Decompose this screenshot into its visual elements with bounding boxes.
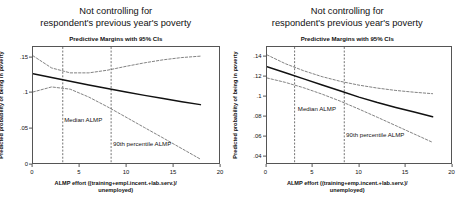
plot-annotation: Median ALMP (64, 116, 102, 123)
x-axis-label-line2: unemployed) (8, 187, 224, 194)
plot-svg: Median ALMP90th percentile ALMP (33, 47, 219, 163)
y-tick-label: .1 (257, 93, 262, 99)
x-tick-mark (405, 164, 406, 167)
x-tick-label: 10 (355, 169, 362, 175)
predictive-margins-figure: Not controlling for respondent's previou… (0, 0, 463, 208)
x-tick-label: 5 (310, 169, 313, 175)
panel-right: Not controlling for respondent's previou… (232, 0, 463, 208)
x-tick-mark (220, 164, 221, 167)
x-axis-label-line1: ALMP effort ((training+empl.incent.+lab.… (8, 180, 224, 187)
x-tick-mark (79, 164, 80, 167)
plot-svg: Median ALMP90th percentile ALMP (267, 47, 451, 163)
y-tick-label: 0 (25, 161, 28, 167)
y-tick-label: .1 (23, 89, 28, 95)
plot-area: Median ALMP90th percentile ALMP (32, 46, 220, 164)
panel-title-line1: Not controlling for (232, 6, 463, 18)
x-tick-mark (126, 164, 127, 167)
x-tick-mark (265, 164, 266, 167)
x-tick-label: 5 (77, 169, 80, 175)
data-series-line (33, 87, 200, 159)
panel-subtitle: Predictive Margins with 95% CIs (232, 35, 463, 42)
panel-title-line1: Not controlling for (0, 6, 232, 18)
x-tick-mark (173, 164, 174, 167)
x-tick-label: 0 (30, 169, 33, 175)
x-axis-label: ALMP effort ((training+empl.incent.+lab.… (8, 180, 224, 195)
y-axis-ticks: .04.06.08.1.12.14 (232, 46, 266, 164)
panel-subtitle: Predictive Margins with 95% CIs (0, 35, 232, 42)
panel-title-line2: respondent's previous year's poverty (232, 18, 463, 30)
x-axis-ticks: 05101520 (266, 164, 452, 178)
plot-annotation: 90th percentile ALMP (346, 131, 404, 138)
x-tick-mark (32, 164, 33, 167)
x-axis-label-line2: unemployed) (240, 187, 456, 194)
x-tick-label: 15 (402, 169, 409, 175)
panel-left: Not controlling for respondent's previou… (0, 0, 232, 208)
panel-title-line2: respondent's previous year's poverty (0, 18, 232, 30)
panel-title: Not controlling for respondent's previou… (0, 6, 232, 29)
plot-annotation: 90th percentile ALMP (113, 140, 171, 147)
x-tick-label: 20 (448, 169, 455, 175)
y-tick-label: .14 (253, 53, 261, 59)
y-axis-ticks: 0.05.1.15 (0, 46, 32, 164)
x-axis-label: ALMP effort ((training+emp.incent.+lab.s… (240, 180, 456, 195)
y-tick-label: .12 (253, 73, 261, 79)
x-tick-mark (312, 164, 313, 167)
x-tick-label: 15 (170, 169, 177, 175)
x-tick-label: 0 (264, 169, 267, 175)
x-tick-label: 20 (217, 169, 224, 175)
x-axis-label-line1: ALMP effort ((training+emp.incent.+lab.s… (240, 180, 456, 187)
x-tick-mark (358, 164, 359, 167)
y-tick-label: .08 (253, 113, 261, 119)
y-tick-label: .06 (253, 133, 261, 139)
x-tick-label: 10 (123, 169, 130, 175)
panel-title: Not controlling for respondent's previou… (232, 6, 463, 29)
plot-area: Median ALMP90th percentile ALMP (266, 46, 452, 164)
data-series-line (33, 74, 200, 105)
plot-annotation: Median ALMP (297, 105, 335, 112)
y-tick-label: .05 (20, 125, 28, 131)
data-series-line (33, 56, 200, 73)
y-tick-label: .04 (253, 153, 261, 159)
y-tick-label: .15 (20, 54, 28, 60)
x-axis-ticks: 05101520 (32, 164, 220, 178)
x-tick-mark (451, 164, 452, 167)
